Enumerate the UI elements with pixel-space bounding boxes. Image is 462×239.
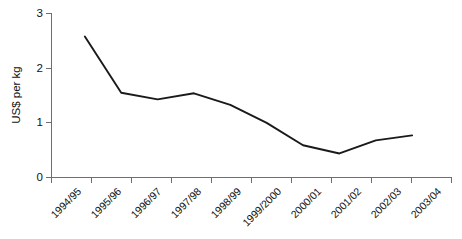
y-tick-label-3: 3 <box>37 7 43 19</box>
x-tick-label-1997-98: 1997/98 <box>168 185 203 220</box>
x-tick-label-1996-97: 1996/97 <box>128 185 163 220</box>
y-tick-label-0: 0 <box>37 171 43 183</box>
x-axis-ticks <box>52 178 452 184</box>
x-tick-label-1995-96: 1995/96 <box>88 185 123 220</box>
y-axis-title: US$ per kg <box>10 66 22 124</box>
x-tick-label-2002-03: 2002/03 <box>368 185 403 220</box>
y-tick-label-1: 1 <box>37 116 43 128</box>
y-axis-ticks <box>46 14 52 178</box>
x-tick-label-1999-2000: 1999/2000 <box>240 185 284 229</box>
data-series-line <box>85 36 412 153</box>
chart-canvas: 3 2 1 0 US$ per kg 1994/95 1995/96 1996/… <box>0 0 462 239</box>
y-tick-label-2: 2 <box>37 62 43 74</box>
x-tick-label-1994-95: 1994/95 <box>48 185 83 220</box>
line-chart: 3 2 1 0 US$ per kg 1994/95 1995/96 1996/… <box>0 0 462 239</box>
y-axis-tick-labels: 3 2 1 0 <box>37 7 43 183</box>
x-tick-label-2000-01: 2000/01 <box>288 185 323 220</box>
x-tick-label-1998-99: 1998/99 <box>208 185 243 220</box>
x-tick-label-2001-02: 2001/02 <box>328 185 363 220</box>
x-axis-tick-labels: 1994/95 1995/96 1996/97 1997/98 1998/99 … <box>48 185 443 229</box>
x-tick-label-2003-04: 2003/04 <box>408 185 443 220</box>
